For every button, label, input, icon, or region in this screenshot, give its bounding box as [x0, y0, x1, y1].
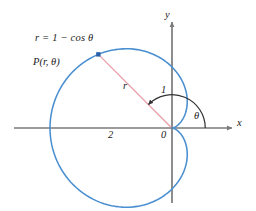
theta-angle-label: θ — [194, 111, 199, 122]
origin-label: 0 — [161, 130, 166, 141]
y-tick-label-1: 1 — [161, 85, 166, 96]
equation-label: r = 1 − cos θ — [35, 33, 93, 44]
radius-label: r — [123, 81, 127, 92]
cardioid-figure: r = 1 − cos θ P(r, θ) r θ 1 2 0 x y — [0, 0, 256, 211]
x-axis-label: x — [237, 118, 242, 129]
point-p-marker — [96, 52, 100, 56]
point-p-label: P(r, θ) — [33, 57, 60, 68]
x-tick-label-2: 2 — [108, 130, 113, 141]
y-axis-label: y — [165, 10, 170, 21]
